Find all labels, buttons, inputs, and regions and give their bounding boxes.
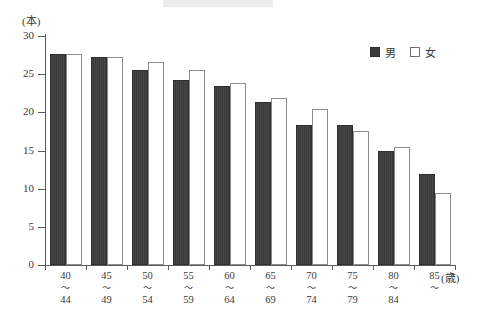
x-category-label: 70～74 [289, 270, 335, 306]
x-category-label: 65～69 [248, 270, 294, 306]
y-tick-label: 10 [0, 183, 34, 194]
x-category-label: 60～64 [207, 270, 253, 306]
legend-swatch-male [370, 47, 380, 57]
x-category-label: 80～84 [371, 270, 417, 306]
y-tick-mark [38, 74, 45, 75]
y-tick-mark [38, 227, 45, 228]
x-category-to: 74 [289, 294, 335, 307]
x-category-from: 40 [43, 270, 89, 283]
bar-female [271, 98, 287, 265]
legend-item: 男 [370, 44, 396, 60]
x-category-from: 80 [371, 270, 417, 283]
bar-male [378, 151, 394, 266]
y-tick-label: 30 [0, 30, 34, 41]
x-category-from: 65 [248, 270, 294, 283]
legend-swatch-female [410, 47, 420, 57]
x-category-tilde: ～ [84, 283, 130, 294]
x-category-to: 64 [207, 294, 253, 307]
y-tick-label: 20 [0, 106, 34, 117]
x-category-tilde: ～ [248, 283, 294, 294]
x-category-tilde: ～ [125, 283, 171, 294]
x-category-to: 59 [166, 294, 212, 307]
bar-female [435, 193, 451, 265]
x-category-tilde: ～ [166, 283, 212, 294]
x-category-tilde: ～ [207, 283, 253, 294]
bar-male [214, 86, 230, 265]
x-category-to: 84 [371, 294, 417, 307]
y-axis-unit-label: (本) [22, 16, 40, 27]
x-category-label: 50～54 [125, 270, 171, 306]
scan-artifact [163, 0, 273, 7]
bar-chart: (本) 051015202530 40～4445～4950～5455～5960～… [0, 0, 477, 315]
legend-label: 男 [385, 44, 396, 60]
x-category-from: 45 [84, 270, 130, 283]
x-category-to: 44 [43, 294, 89, 307]
legend-label: 女 [425, 44, 436, 60]
x-category-tilde: ～ [289, 283, 335, 294]
bar-male [132, 70, 148, 265]
x-category-from: 75 [330, 270, 376, 283]
plot-area [45, 36, 455, 265]
bar-male [296, 125, 312, 265]
bar-female [230, 83, 246, 265]
y-tick-mark [38, 189, 45, 190]
bar-male [255, 102, 271, 265]
x-category-from: 55 [166, 270, 212, 283]
bar-male [173, 80, 189, 265]
x-category-from: 50 [125, 270, 171, 283]
y-tick-label: 5 [0, 221, 34, 232]
x-category-from: 70 [289, 270, 335, 283]
legend-item: 女 [410, 44, 436, 60]
bar-female [107, 57, 123, 265]
x-category-tilde: ～ [43, 283, 89, 294]
x-category-from: 60 [207, 270, 253, 283]
y-tick-mark [38, 265, 45, 266]
x-axis-unit-label: (歳) [441, 272, 459, 284]
y-tick-mark [38, 36, 45, 37]
x-category-to: 54 [125, 294, 171, 307]
bar-male [91, 57, 107, 265]
bar-female [394, 147, 410, 265]
y-tick-label: 0 [0, 259, 34, 270]
y-tick-mark [38, 151, 45, 152]
bar-female [66, 54, 82, 265]
y-tick-label: 25 [0, 68, 34, 79]
x-category-to: 49 [84, 294, 130, 307]
legend: 男女 [370, 44, 436, 60]
bar-male [337, 125, 353, 265]
y-tick-mark [38, 112, 45, 113]
bar-female [148, 62, 164, 265]
x-category-label: 75～79 [330, 270, 376, 306]
bar-female [353, 131, 369, 265]
y-tick-label: 15 [0, 145, 34, 156]
x-category-label: 45～49 [84, 270, 130, 306]
x-category-to: 69 [248, 294, 294, 307]
x-category-tilde: ～ [412, 283, 458, 294]
bar-male [50, 54, 66, 265]
x-category-label: 40～44 [43, 270, 89, 306]
x-category-tilde: ～ [330, 283, 376, 294]
x-category-label: 55～59 [166, 270, 212, 306]
x-category-to: 79 [330, 294, 376, 307]
bar-male [419, 174, 435, 265]
x-category-tilde: ～ [371, 283, 417, 294]
bar-female [189, 70, 205, 265]
bar-female [312, 109, 328, 265]
x-axis-labels: 40～4445～4950～5455～5960～6465～6970～7475～79… [45, 270, 455, 315]
